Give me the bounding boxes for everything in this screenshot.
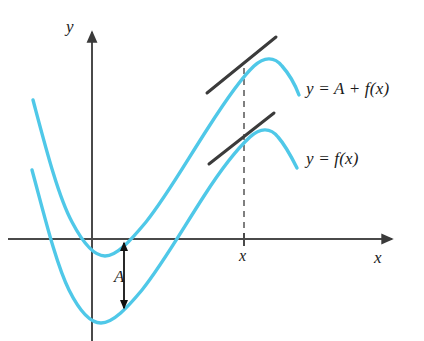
x-tick-label: x [239, 248, 246, 264]
x-axis-label: x [374, 249, 382, 266]
upper-tangent-line [207, 37, 276, 93]
lower-curve-label: y = f(x) [306, 150, 359, 167]
upper-curve-label: y = A + f(x) [306, 80, 389, 97]
lower-curve-path [32, 130, 297, 323]
math-figure: y x x A y = A + f(x) y = f(x) [0, 0, 424, 341]
lower-tangent-line [209, 113, 274, 164]
figure-canvas [0, 0, 424, 341]
upper-curve-path [33, 59, 299, 256]
y-axis-label: y [66, 18, 74, 35]
vertical-shift-label: A [114, 268, 124, 285]
